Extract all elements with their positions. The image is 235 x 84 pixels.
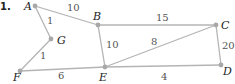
edge-weight-b-c: 15 — [156, 12, 169, 23]
edge-weight-e-c: 8 — [151, 36, 157, 47]
node-label-g: G — [57, 34, 66, 47]
node-a — [33, 4, 38, 9]
edge-e-d — [105, 65, 221, 67]
edge-e-c — [105, 25, 216, 67]
node-label-e: E — [98, 71, 107, 84]
edge-weight-a-g: 1 — [47, 15, 53, 26]
edge-weight-g-f: 1 — [40, 50, 46, 61]
edge-weight-c-d: 20 — [222, 40, 235, 51]
node-c — [214, 23, 219, 28]
edge-b-e — [98, 25, 105, 67]
node-label-f: F — [12, 71, 21, 84]
edge-weight-a-b: 10 — [67, 2, 80, 13]
edge-weight-b-e: 10 — [106, 39, 119, 50]
weighted-graph: 1. 1011610158204 ABCDEFG — [0, 0, 235, 84]
node-g — [49, 37, 54, 42]
problem-number: 1. — [0, 1, 11, 12]
edge-weight-f-e: 6 — [58, 70, 64, 81]
node-e — [103, 65, 108, 70]
node-label-b: B — [92, 10, 101, 23]
node-b — [96, 23, 101, 28]
edge-weight-e-d: 4 — [161, 71, 167, 82]
node-label-d: D — [222, 65, 232, 78]
node-label-a: A — [23, 0, 32, 13]
node-label-c: C — [221, 19, 230, 32]
nodes: ABCDEFG — [12, 0, 232, 84]
edges: 1011610158204 — [20, 2, 235, 82]
